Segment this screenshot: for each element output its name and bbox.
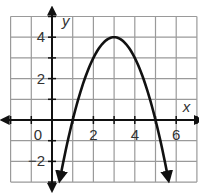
y-tick-label: 2 bbox=[37, 70, 45, 87]
x-tick-label: 6 bbox=[172, 126, 180, 143]
y-axis-label: y bbox=[61, 12, 71, 29]
chart-canvas: 024642−2xy bbox=[0, 0, 199, 193]
x-axis-label: x bbox=[182, 98, 191, 115]
x-tick-label: 4 bbox=[131, 126, 139, 143]
x-tick-label: 2 bbox=[89, 126, 97, 143]
x-tick-label: 0 bbox=[34, 126, 42, 143]
y-tick-label: 4 bbox=[37, 28, 45, 45]
y-tick-label: −2 bbox=[28, 152, 45, 169]
parabola-graph: 024642−2xy bbox=[0, 0, 199, 193]
